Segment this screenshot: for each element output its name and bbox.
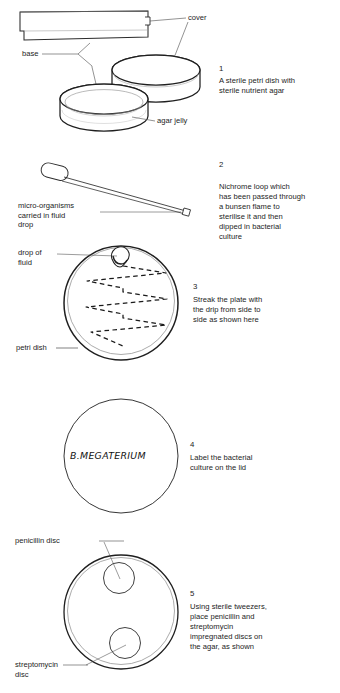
- step-text-1: A sterile petri dish with sterile nutrie…: [219, 76, 337, 96]
- base-leader: [42, 54, 92, 67]
- step-number-3: 3: [193, 282, 197, 292]
- step-number-4: 4: [190, 440, 194, 450]
- step-text-5: Using sterile tweezers, place penicillin…: [190, 602, 318, 652]
- streptomycin-disc-circle: [110, 628, 141, 659]
- step-text-3: Streak the plate with the drip from side…: [193, 295, 321, 325]
- step-text-2: Nichrome loop which has been passed thro…: [219, 182, 339, 241]
- label-streptomycin-disc: streptomycin disc: [15, 660, 77, 679]
- petri-dish-base-3d: [60, 84, 148, 131]
- step5-illustration: [63, 541, 178, 669]
- label-petri-dish: petri dish: [16, 343, 47, 353]
- label-drop-of-fluid: drop of fluid: [18, 248, 60, 267]
- label-micro-organisms: micro-organisms carried in fluid drop: [18, 201, 100, 230]
- label-agar-jelly: agar jelly: [157, 116, 187, 126]
- handwritten-culture-label: B.MEGATERIUM: [70, 450, 146, 461]
- step-text-4: Label the bacterial culture on the lid: [190, 453, 314, 473]
- cover-leader-upper: [150, 18, 186, 21]
- loop-tip: [182, 208, 190, 216]
- label-penicillin-disc: penicillin disc: [15, 536, 60, 546]
- step1-illustration: [20, 11, 200, 131]
- cover-side-view: [20, 11, 150, 40]
- diagram-artwork: [0, 0, 340, 693]
- step-number-1: 1: [219, 64, 223, 74]
- figure-canvas: cover base agar jelly 1 A sterile petri …: [0, 0, 340, 693]
- label-cover: cover: [188, 13, 207, 23]
- step3-illustration: [56, 246, 178, 360]
- step-number-5: 5: [190, 589, 194, 599]
- penicillin-disc-circle: [104, 563, 135, 594]
- step-number-2: 2: [219, 160, 223, 170]
- label-base: base: [22, 49, 38, 59]
